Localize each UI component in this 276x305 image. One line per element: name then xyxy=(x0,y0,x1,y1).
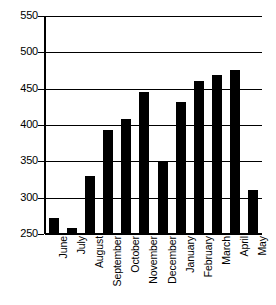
y-axis-tick-label: 350 xyxy=(6,155,38,166)
bar xyxy=(103,130,113,234)
bar xyxy=(67,228,77,234)
bar xyxy=(49,218,59,234)
bar xyxy=(176,102,186,234)
x-axis-tick-label: November xyxy=(148,236,159,284)
x-axis-tick-label: June xyxy=(58,236,69,258)
y-axis-tick-label: 500 xyxy=(6,46,38,57)
x-axis-tick-label: July xyxy=(76,236,87,254)
x-axis-tick-label: May xyxy=(257,236,268,256)
bar xyxy=(85,176,95,234)
bar xyxy=(139,92,149,234)
bar xyxy=(158,161,168,234)
bar xyxy=(194,81,204,234)
bar xyxy=(121,119,131,234)
y-axis-tick-label: 450 xyxy=(6,83,38,94)
x-axis-tick-label: August xyxy=(94,236,105,268)
y-axis-tick xyxy=(38,234,44,235)
bar-chart: 250300350400450500550 JuneJulyAugustSept… xyxy=(0,0,276,305)
bar xyxy=(212,75,222,234)
x-axis-tick-label: March xyxy=(221,236,232,265)
y-axis-tick-label: 400 xyxy=(6,119,38,130)
y-axis-tick-label: 250 xyxy=(6,228,38,239)
y-axis-tick xyxy=(38,198,44,199)
x-axis-labels: JuneJulyAugustSeptemberOctoberNovemberDe… xyxy=(45,236,262,305)
y-axis-tick xyxy=(38,161,44,162)
x-axis-tick-label: February xyxy=(203,236,214,277)
bar xyxy=(248,190,258,234)
x-axis-tick-label: September xyxy=(112,236,123,286)
y-axis-tick xyxy=(38,52,44,53)
x-axis-tick-label: October xyxy=(130,236,141,273)
y-axis-tick-label: 300 xyxy=(6,192,38,203)
y-axis-tick xyxy=(38,125,44,126)
y-axis-tick-label: 550 xyxy=(6,10,38,21)
bars-group xyxy=(45,16,262,234)
x-axis-tick-label: April xyxy=(239,236,250,257)
x-axis-tick-label: December xyxy=(167,236,178,284)
y-axis-tick xyxy=(38,89,44,90)
bar xyxy=(230,70,240,234)
x-axis-tick-label: January xyxy=(185,236,196,273)
y-axis-tick xyxy=(38,16,44,17)
